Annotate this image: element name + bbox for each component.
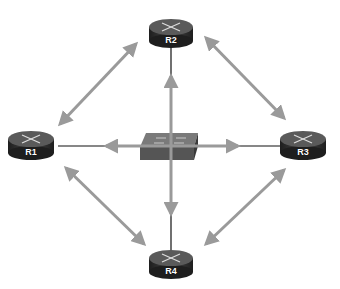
router-label-r3: R3 bbox=[288, 147, 318, 157]
router-label-r2: R2 bbox=[156, 35, 186, 45]
switch-front bbox=[140, 147, 194, 160]
router-label-r4: R4 bbox=[156, 266, 186, 276]
switch-arrows bbox=[106, 76, 238, 214]
arrow-r3-r4 bbox=[206, 170, 284, 244]
arrow-r4-r1 bbox=[66, 168, 144, 244]
router-label-r1: R1 bbox=[16, 147, 46, 157]
arrow-r1-r2 bbox=[60, 44, 136, 124]
arrow-r2-r3 bbox=[206, 38, 284, 118]
